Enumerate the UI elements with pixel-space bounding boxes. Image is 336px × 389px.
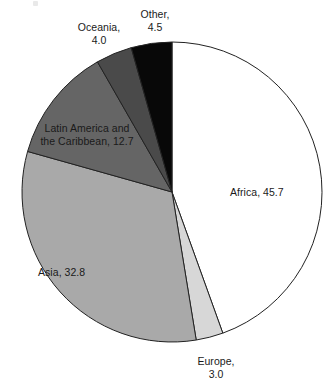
slice-label-latin-america-and-the-caribbean: Latin America and the Caribbean, 12.7 (26, 122, 148, 147)
slice-label-africa: Africa, 45.7 (230, 186, 320, 199)
slice-label-europe: Europe, 3.0 (185, 355, 247, 380)
slice-label-other: Other, 4.5 (124, 8, 186, 33)
slice-label-asia: Asia, 32.8 (38, 266, 126, 279)
pie-chart: Africa, 45.7 Europe, 3.0 Asia, 32.8 Lati… (0, 0, 336, 389)
